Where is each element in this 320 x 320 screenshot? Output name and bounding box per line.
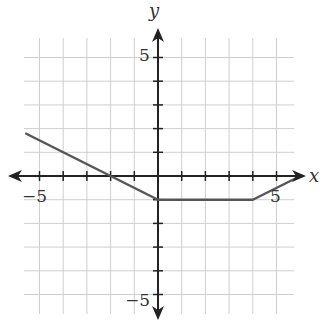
- y-axis-label: y: [148, 0, 160, 21]
- y-tick-label-neg5: −5: [125, 290, 150, 310]
- x-axis-label: x: [309, 165, 319, 186]
- axes: [14, 36, 300, 314]
- function-graph-line: [25, 133, 298, 199]
- y-tick-label-5: 5: [139, 45, 150, 65]
- x-tick-label-5: 5: [270, 186, 281, 206]
- x-tick-label-neg5: −5: [22, 186, 47, 206]
- coordinate-plane: y x −5 5 5 −5: [0, 0, 320, 320]
